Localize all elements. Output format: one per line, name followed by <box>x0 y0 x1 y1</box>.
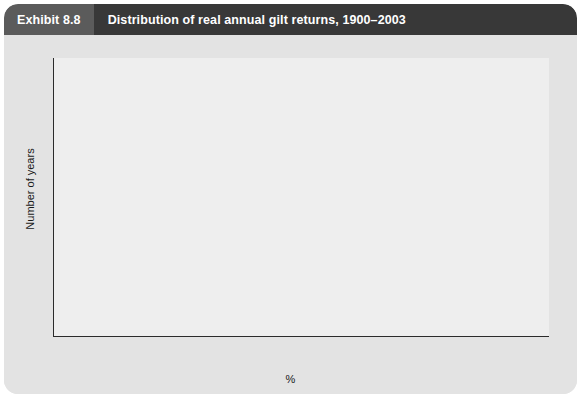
chart-region: Number of years % <box>4 35 577 394</box>
exhibit-title-text: Distribution of real annual gilt returns… <box>94 4 577 35</box>
exhibit-card: Exhibit 8.8 Distribution of real annual … <box>4 4 577 394</box>
exhibit-title-bar: Exhibit 8.8 Distribution of real annual … <box>4 4 577 35</box>
y-axis-title: Number of years <box>24 119 36 259</box>
bars-container <box>54 58 549 336</box>
plot-area <box>53 58 549 337</box>
exhibit-number-label: Exhibit 8.8 <box>4 4 94 35</box>
x-axis-title: % <box>4 373 577 385</box>
